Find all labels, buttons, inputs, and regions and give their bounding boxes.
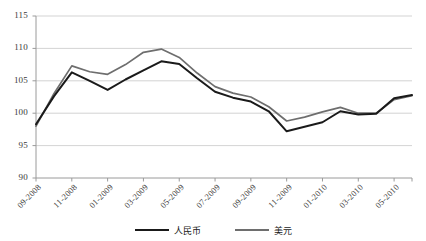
legend-label-usd: 美元 (274, 224, 292, 237)
y-axis-tick-label: 110 (2, 42, 28, 52)
y-axis-tick-label: 105 (2, 75, 28, 85)
legend-item-rmb[interactable]: 人民币 (135, 224, 201, 237)
y-axis-tick-label: 100 (2, 107, 28, 117)
y-axis-tick-label: 95 (2, 140, 28, 150)
legend-swatch-rmb (135, 229, 169, 231)
y-axis-tick-label: 115 (2, 10, 28, 20)
legend-swatch-usd (235, 229, 269, 231)
chart-legend: 人民币 美元 (0, 219, 426, 241)
plot-area (0, 0, 426, 241)
legend-label-rmb: 人民币 (174, 224, 201, 237)
y-axis-tick-label: 90 (2, 172, 28, 182)
line-chart: 9095100105110115 09-200811-200801-200903… (0, 0, 426, 241)
legend-item-usd[interactable]: 美元 (235, 224, 292, 237)
